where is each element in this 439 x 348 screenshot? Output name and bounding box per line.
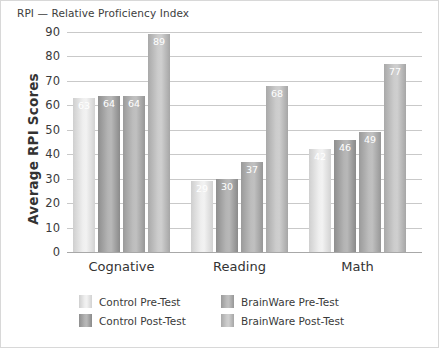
bar: 30 [216, 179, 238, 252]
chart-title: RPI — Relative Proficiency Index [17, 7, 189, 19]
y-axis-tick-label: 90 [45, 25, 60, 39]
legend-item[interactable]: BrainWare Post-Test [221, 311, 381, 330]
gridline [67, 32, 422, 33]
chart-container: RPI — Relative Proficiency Index Average… [0, 0, 439, 348]
y-axis-tick-label: 50 [45, 123, 60, 137]
bar: 89 [148, 34, 170, 252]
gridline [67, 130, 422, 131]
bar-value-label: 63 [73, 100, 95, 111]
y-axis-title: Average RPI Scores [25, 54, 41, 244]
legend-swatch [221, 295, 234, 308]
bar: 29 [191, 181, 213, 252]
x-axis-category-label: Reading [171, 259, 308, 274]
bar: 46 [334, 140, 356, 252]
gridline [67, 81, 422, 82]
gridline [67, 56, 422, 57]
legend-item[interactable]: Control Post-Test [79, 311, 221, 330]
bar: 49 [359, 132, 381, 252]
legend-swatch [79, 295, 92, 308]
y-axis-tick-label: 60 [45, 98, 60, 112]
bar-value-label: 42 [309, 151, 331, 162]
chart-legend: Control Pre-TestBrainWare Pre-TestContro… [79, 292, 409, 330]
gridline [67, 252, 422, 253]
bar: 64 [98, 96, 120, 252]
bar: 37 [241, 162, 263, 252]
bar: 64 [123, 96, 145, 252]
bar: 68 [266, 86, 288, 252]
y-axis-tick-label: 10 [45, 221, 60, 235]
legend-label: Control Pre-Test [99, 296, 181, 308]
gridline [67, 105, 422, 106]
y-axis-tick-label: 40 [45, 147, 60, 161]
y-axis-tick-label: 20 [45, 196, 60, 210]
bar-value-label: 29 [191, 183, 213, 194]
bar-value-label: 49 [359, 134, 381, 145]
y-axis-tick-label: 0 [53, 245, 60, 259]
plot-area: 0102030405060708090 63646489293037684246… [67, 32, 422, 252]
x-axis-category-label: Cognative [53, 259, 190, 274]
bar-value-label: 64 [123, 98, 145, 109]
bar-value-label: 37 [241, 164, 263, 175]
bar: 42 [309, 149, 331, 252]
y-axis-tick-label: 70 [45, 74, 60, 88]
legend-label: BrainWare Pre-Test [241, 296, 339, 308]
y-axis-tick-label: 80 [45, 49, 60, 63]
bar-value-label: 77 [384, 66, 406, 77]
bar-value-label: 64 [98, 98, 120, 109]
legend-label: BrainWare Post-Test [241, 315, 344, 327]
bar-value-label: 89 [148, 36, 170, 47]
legend-item[interactable]: BrainWare Pre-Test [221, 292, 381, 311]
legend-swatch [79, 314, 92, 327]
bar-value-label: 30 [216, 181, 238, 192]
legend-label: Control Post-Test [99, 315, 186, 327]
legend-item[interactable]: Control Pre-Test [79, 292, 221, 311]
x-axis-category-label: Math [289, 259, 426, 274]
bar: 77 [384, 64, 406, 252]
legend-swatch [221, 314, 234, 327]
y-axis-tick-label: 30 [45, 172, 60, 186]
bar-value-label: 46 [334, 142, 356, 153]
bar-value-label: 68 [266, 88, 288, 99]
bar: 63 [73, 98, 95, 252]
